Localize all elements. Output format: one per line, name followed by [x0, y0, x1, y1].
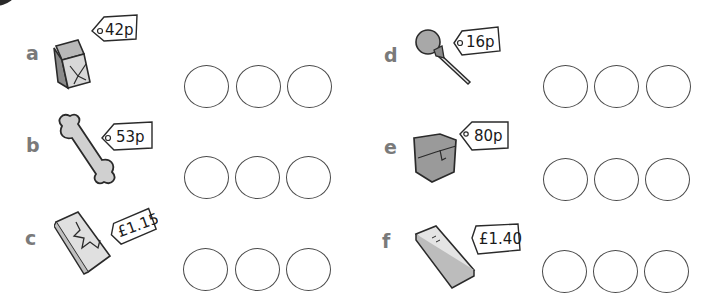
item-letter-e: e: [384, 138, 397, 157]
answer-circle-c-2[interactable]: [235, 248, 280, 291]
answer-circle-a-2[interactable]: [236, 65, 281, 108]
answer-circle-f-1[interactable]: [542, 250, 587, 293]
price-tag-d: 16p: [452, 25, 502, 59]
answer-circle-d-3[interactable]: [646, 65, 691, 108]
chocolate-bar-icon: [54, 208, 114, 280]
price-label-b: 53p: [116, 128, 145, 146]
price-tag-e: 80p: [458, 118, 510, 154]
answer-circle-e-3[interactable]: [645, 158, 690, 201]
box-icon: [410, 132, 462, 186]
price-label-a: 42p: [105, 21, 134, 39]
price-tag-b: 53p: [100, 118, 156, 154]
answer-circle-f-2[interactable]: [593, 250, 638, 293]
price-label-f: £1.40: [479, 230, 522, 248]
answer-circle-a-3[interactable]: [287, 65, 332, 108]
answer-circle-a-1[interactable]: [184, 65, 229, 108]
price-tag-c: £1.15: [108, 205, 158, 245]
answer-circle-b-1[interactable]: [184, 156, 229, 199]
answer-circle-c-3[interactable]: [286, 248, 331, 291]
answer-circle-b-3[interactable]: [286, 156, 331, 199]
price-label-e: 80p: [474, 127, 503, 145]
answer-circle-b-2[interactable]: [235, 156, 280, 199]
exercise-number-badge: [0, 0, 18, 6]
answer-circle-f-3[interactable]: [644, 250, 689, 293]
price-tag-f: £1.40: [470, 220, 522, 258]
answer-circle-c-1[interactable]: [183, 248, 228, 291]
item-letter-f: f: [382, 232, 390, 251]
item-letter-d: d: [384, 46, 398, 65]
answer-circle-d-1[interactable]: [543, 65, 588, 108]
item-letter-a: a: [26, 44, 39, 63]
answer-circle-e-2[interactable]: [594, 158, 639, 201]
answer-circle-d-2[interactable]: [594, 65, 639, 108]
price-tag-a: 42p: [90, 13, 140, 45]
price-label-d: 16p: [466, 33, 495, 51]
answer-circle-e-1[interactable]: [543, 158, 588, 201]
item-letter-b: b: [26, 136, 40, 155]
item-letter-c: c: [25, 229, 36, 248]
